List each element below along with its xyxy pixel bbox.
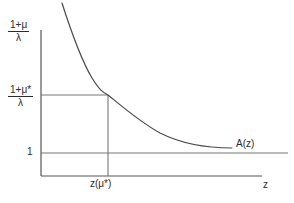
x-axis-label: z [263,180,268,190]
curve-label: A(z) [236,139,254,149]
y-axis-label-mid: 1+μ* λ [8,85,33,109]
fraction-mid-denominator: λ [8,97,33,109]
plot-canvas [0,0,294,203]
fraction-top: 1+μ λ [8,20,29,43]
fraction-top-numerator: 1+μ [8,20,29,32]
y-axis-label-one: 1 [27,147,33,157]
fraction-mid-numerator: 1+μ* [8,85,33,97]
y-axis-label-top: 1+μ λ [8,20,29,44]
fraction-top-denominator: λ [8,32,29,44]
chart-figure: 1+μ λ 1+μ* λ 1 z(μ*) z A(z) [0,0,294,203]
fraction-mid: 1+μ* λ [8,85,33,108]
x-axis-tick-label: z(μ*) [90,179,111,189]
curve-a-of-z [62,3,232,148]
